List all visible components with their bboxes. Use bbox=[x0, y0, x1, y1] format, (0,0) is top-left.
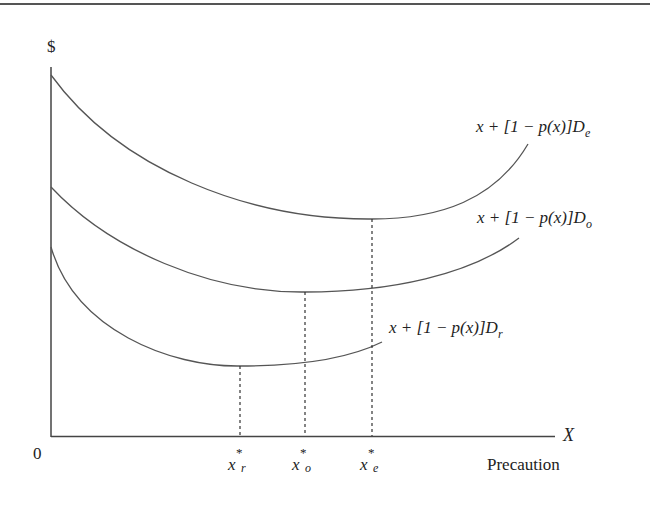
marker-star: * bbox=[300, 445, 307, 461]
x-axis-title: Precaution bbox=[487, 455, 560, 475]
cost-curves-diagram bbox=[0, 0, 650, 508]
marker-sub: e bbox=[373, 461, 378, 476]
curve-label-Do: x + [1 − p(x)]Do bbox=[477, 208, 592, 228]
marker-base: x bbox=[292, 455, 300, 474]
origin-label: 0 bbox=[33, 444, 42, 464]
marker-xe: x * e bbox=[360, 455, 368, 475]
curve-label-sub: r bbox=[498, 327, 503, 341]
y-axis-label: $ bbox=[47, 37, 56, 57]
marker-base: x bbox=[228, 455, 236, 474]
curve-Dr bbox=[51, 247, 382, 366]
curve-De bbox=[51, 75, 528, 219]
marker-xo: x * o bbox=[292, 455, 300, 475]
curve-label-main: x + [1 − p(x)]D bbox=[389, 318, 498, 337]
marker-sub: r bbox=[241, 461, 246, 476]
curve-label-Dr: x + [1 − p(x)]Dr bbox=[389, 318, 503, 338]
curve-label-main: x + [1 − p(x)]D bbox=[477, 208, 586, 227]
x-axis-label: X bbox=[563, 425, 574, 446]
marker-base: x bbox=[360, 455, 368, 474]
curve-label-De: x + [1 − p(x)]De bbox=[476, 117, 590, 137]
marker-star: * bbox=[368, 445, 375, 461]
marker-xr: x * r bbox=[228, 455, 236, 475]
curve-Do bbox=[51, 187, 519, 292]
marker-star: * bbox=[236, 445, 243, 461]
curve-label-sub: o bbox=[586, 217, 592, 231]
curve-label-main: x + [1 − p(x)]D bbox=[476, 117, 585, 136]
marker-sub: o bbox=[305, 461, 311, 476]
curve-label-sub: e bbox=[585, 126, 590, 140]
